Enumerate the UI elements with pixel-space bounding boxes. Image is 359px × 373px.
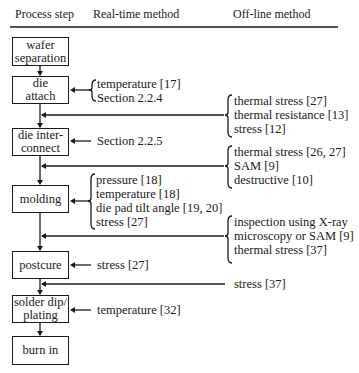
realtime-solder-dip: temperature [32] [97,303,181,317]
brace-after-die-attach [225,95,232,137]
step-burn-in: burn in [12,336,69,365]
arrowhead-left [41,233,46,239]
brace-after-molding [225,216,232,263]
step-molding: molding [12,185,69,213]
realtime-die-attach: temperature [17] Section 2.2.4 [97,77,181,105]
realtime-die-interconnect: Section 2.2.5 [97,134,163,148]
step-wafer-separation: waferseparation [12,37,69,66]
arrowhead-left [70,307,75,313]
arrowhead-left [41,163,46,169]
realtime-molding: pressure [18] temperature [18] die pad t… [96,173,222,229]
offline-after-postcure: stress [37] [234,277,286,291]
offline-after-molding: inspection using X-ray microscopy or SAM… [234,215,354,257]
brace-die-attach [89,80,96,101]
arrowhead-left [41,281,46,287]
step-die-attach: dieattach [12,76,69,104]
arrowhead-left [41,112,46,118]
step-solder-dip-plating: solder dip/plating [12,295,69,323]
step-die-interconnect: die inter-connect [12,128,69,156]
offline-after-die-attach: thermal stress [27] thermal resistance [… [234,94,349,136]
arrowhead-left [70,138,75,144]
realtime-postcure: stress [27] [97,258,149,272]
arrowhead-left [70,198,75,204]
brace-after-die-interconnect [225,146,232,188]
step-postcure: postcure [12,251,69,279]
brace-molding [88,174,95,229]
arrowhead-left [70,262,75,268]
offline-after-die-interconnect: thermal stress [26, 27] SAM [9] destruct… [234,145,346,187]
arrowhead-left [70,87,75,93]
